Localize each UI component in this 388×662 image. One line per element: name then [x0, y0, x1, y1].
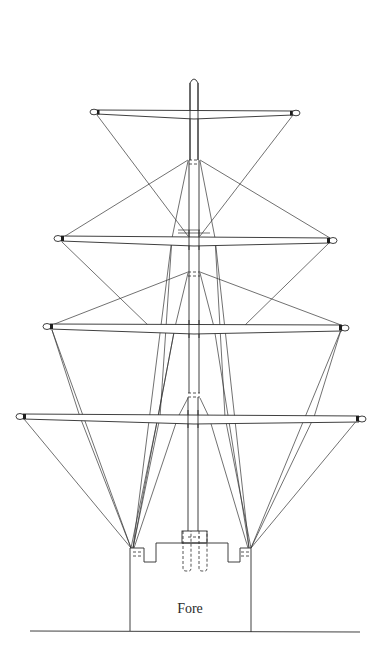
- topgallant-yard: [54, 230, 337, 246]
- foremast-diagram: Fore: [0, 0, 388, 662]
- topsail-yard: [43, 324, 349, 335]
- royal-mast: [190, 79, 198, 160]
- fore-label: Fore: [177, 601, 203, 616]
- mast-overlay: [188, 83, 199, 428]
- ground-line: [30, 631, 360, 632]
- fore-yard: [16, 414, 366, 425]
- deck-structure: Fore: [30, 531, 360, 632]
- royal-yard: [90, 109, 300, 119]
- deck-profile: [130, 543, 251, 562]
- yards: [16, 109, 366, 424]
